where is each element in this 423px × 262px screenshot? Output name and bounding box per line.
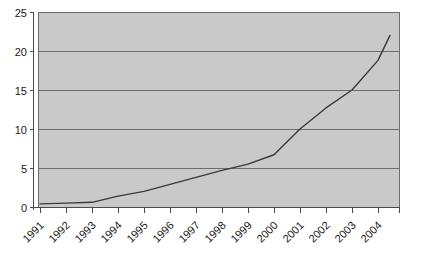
x-tick-label: 2001: [280, 219, 306, 245]
line-chart: 0510152025199119921993199419951996199719…: [0, 0, 423, 262]
x-tick-label: 2002: [306, 219, 332, 245]
y-tick-label: 10: [15, 124, 27, 136]
y-tick-label: 20: [15, 46, 27, 58]
y-tick-label: 25: [15, 7, 27, 19]
y-tick-label: 0: [21, 202, 27, 214]
x-tick-label: 1991: [20, 219, 46, 245]
x-tick-label: 1994: [98, 219, 124, 245]
x-tick-label: 1992: [46, 219, 72, 245]
x-tick-label: 2003: [332, 219, 358, 245]
chart-canvas: 0510152025199119921993199419951996199719…: [0, 0, 423, 262]
plot-area-background: [38, 12, 400, 207]
x-tick-label: 2000: [254, 219, 280, 245]
x-tick-label: 1998: [202, 219, 228, 245]
x-tick-label: 1993: [72, 219, 98, 245]
x-tick-label: 1999: [228, 219, 254, 245]
y-tick-label: 5: [21, 163, 27, 175]
x-tick-label: 1996: [150, 219, 176, 245]
x-tick-label: 1995: [124, 219, 150, 245]
x-tick-label: 1997: [176, 219, 202, 245]
x-tick-label: 2004: [358, 219, 384, 245]
y-tick-label: 15: [15, 85, 27, 97]
